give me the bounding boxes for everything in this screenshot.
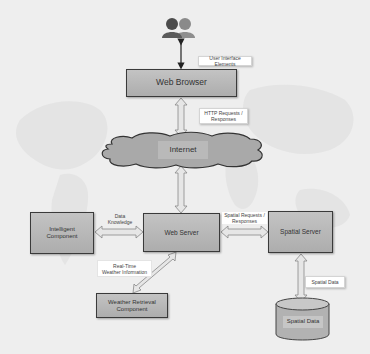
edge-label-spatial-requests: Spatial Requests / Responses — [222, 212, 267, 224]
weather-retrieval-label-line1: Weather Retrieval — [108, 299, 156, 306]
spatial-server-label: Spatial Server — [280, 228, 321, 235]
internet-webserver-arrow — [175, 166, 187, 213]
edge-label-data-line2: Knowledge — [100, 219, 140, 225]
edge-label-ui-elements: User Interface Elements — [198, 56, 252, 66]
edge-label-spatial-data-text: Spatial Data — [311, 279, 338, 285]
spatial-server-node: Spatial Server — [268, 211, 333, 253]
users-icon — [162, 18, 195, 38]
edge-label-ui-elements-text: User Interface Elements — [199, 55, 251, 67]
weather-retrieval-node: Weather Retrieval Component — [96, 293, 168, 318]
connectors-layer — [0, 0, 370, 354]
weather-retrieval-label-line2: Component — [116, 306, 147, 313]
edge-label-data-knowledge: Data Knowledge — [100, 213, 140, 225]
edge-label-spatial-data: Spatial Data — [305, 276, 345, 288]
intelligent-webserver-arrow — [95, 226, 143, 238]
webserver-spatialserver-arrow — [221, 226, 268, 238]
browser-internet-arrow — [175, 98, 187, 137]
edge-label-realtime-line2: Weather Information — [102, 269, 147, 275]
edge-label-http: HTTP Requests / Responses — [199, 108, 248, 124]
spatial-data-label: Spatial Data — [283, 318, 323, 325]
intelligent-component-label-line1: Intelligent — [49, 226, 75, 233]
web-server-label: Web Server — [164, 229, 198, 236]
web-browser-node: Web Browser — [126, 69, 237, 97]
intelligent-component-label-line2: Component — [46, 233, 77, 240]
edge-label-realtime-weather: Real-Time Weather Information — [97, 260, 152, 277]
web-server-node: Web Server — [143, 213, 220, 252]
intelligent-component-node: Intelligent Component — [30, 212, 94, 254]
web-browser-label: Web Browser — [156, 78, 207, 88]
diagram-canvas: Internet Web Browser Intelligent Compone… — [0, 0, 370, 354]
edge-label-spatial-req-line2: Responses — [222, 218, 267, 224]
edge-label-http-line2: Responses — [211, 116, 236, 122]
internet-label: Internet — [158, 145, 208, 155]
